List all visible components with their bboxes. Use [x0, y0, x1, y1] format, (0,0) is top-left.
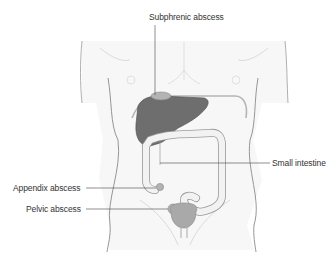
label-small-intestine: Small intestine	[272, 159, 326, 168]
label-subphrenic-abscess: Subphrenic abscess	[149, 13, 224, 22]
label-pelvic-abscess: Pelvic abscess	[26, 205, 81, 214]
abdomen-diagram	[0, 0, 336, 255]
label-appendix-abscess: Appendix abscess	[13, 184, 80, 193]
subphrenic-abscess	[151, 92, 171, 100]
appendix-abscess	[156, 183, 163, 190]
